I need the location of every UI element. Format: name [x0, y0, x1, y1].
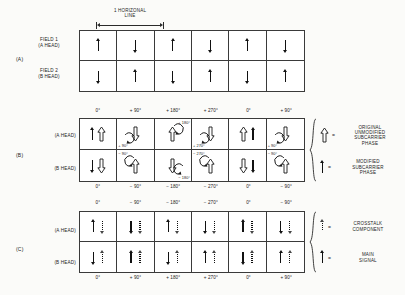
section-a-row-label-top: FIELD 1 (A HEAD): [26, 37, 72, 48]
section-c-cell-r2-c3: [155, 242, 192, 272]
measure-tick-right: [163, 22, 164, 29]
section-c-grid: [79, 211, 305, 273]
signal-symbol-group: [128, 219, 142, 234]
section-c-cell-r2-c5: [229, 242, 266, 272]
section-c-row-label-bottom: (B HEAD): [36, 260, 76, 266]
phase-symbol-group: [131, 126, 140, 142]
section-b-top-degree-6: + 90°: [267, 108, 305, 116]
section-b-cell-r1-c2: + 90°: [117, 119, 154, 150]
section-c-cell-r2-c6: [267, 242, 304, 272]
hollow-arrow-up-icon: [206, 158, 215, 174]
section-b-row-label-bottom: (B HEAD): [36, 166, 76, 172]
section-b-cell-r1-c5: [229, 119, 266, 150]
main-signal-arrow-down-icon: [203, 219, 208, 234]
crosstalk-arrow-up-icon: [137, 250, 142, 265]
phase-symbol-group: [168, 158, 177, 174]
section-a-cell-r2-c3: [155, 61, 192, 91]
phase-symbol-group: [168, 126, 177, 142]
section-c-cell-r1-c3: [155, 212, 192, 242]
subcarrier-arrow-up-icon: [208, 69, 213, 84]
subcarrier-arrow-up-icon: [283, 69, 288, 84]
hollow-arrow-down-icon: [97, 158, 106, 174]
section-b-top-degree-1: 0°: [79, 108, 117, 116]
measure-arrowhead-left: [97, 23, 100, 27]
section-c-brace: [309, 211, 317, 273]
subcarrier-arrow-up-icon: [96, 38, 101, 53]
section-c-bottom-degree-3: + 180°: [154, 275, 192, 283]
main-signal-arrow-up-icon: [128, 250, 133, 265]
section-b-top-degree-2: + 90°: [117, 108, 155, 116]
signal-symbol-group: [240, 219, 254, 234]
section-b-top-degree-5: 0°: [230, 108, 268, 116]
phase-symbol-group: [206, 126, 215, 142]
section-b-top-degree-4: + 270°: [192, 108, 230, 116]
main-signal-arrow-down-icon: [278, 219, 283, 234]
section-b-cell-r2-c6: − 90°: [267, 150, 304, 181]
main-signal-arrow-down-icon: [128, 219, 133, 234]
legend-text: MODIFIED SUBCARRIER PHASE: [334, 159, 402, 175]
signal-symbol-group: [203, 219, 217, 234]
subcarrier-arrow-up-icon: [245, 38, 250, 53]
rotation-label: − 270°: [193, 151, 205, 156]
legend-equals-sign: =: [332, 132, 335, 138]
crosstalk-arrow-down-icon: [137, 219, 142, 234]
section-a-cell-r2-c1: [80, 61, 117, 91]
section-b-bottom-degree-6: − 90°: [267, 184, 305, 192]
subcarrier-arrow-down-icon: [133, 38, 138, 53]
thin-arrow-down-icon: [90, 158, 95, 173]
crosstalk-arrow-up-icon: [175, 250, 180, 265]
section-b-legend-item-1: =ORIGINAL UNMODIFIED SUBCARRIER PHASE: [320, 125, 402, 146]
hollow-arrow-down-icon: [206, 126, 215, 142]
section-b-top-degrees: 0°+ 90°+ 180°+ 270°0°+ 90°: [79, 108, 305, 116]
signal-symbol-group: [240, 250, 254, 265]
main-signal-arrow-up-icon: [278, 250, 283, 265]
section-b-cell-r1-c3: + 180°: [155, 119, 192, 150]
hollow-arrow-up-icon: [281, 158, 290, 174]
crosstalk-arrow-down-icon: [212, 219, 217, 234]
section-a-cell-r1-c6: [267, 31, 304, 61]
main-signal-arrow-up-icon: [240, 219, 245, 234]
hollow-arrow-up-icon: [168, 126, 177, 142]
signal-symbol-group: [128, 250, 142, 265]
legend-text: ORIGINAL UNMODIFIED SUBCARRIER PHASE: [338, 125, 402, 146]
subcarrier-arrow-down-icon: [245, 69, 250, 84]
thin-arrow-up-icon: [320, 160, 325, 175]
section-c-bottom-degree-4: + 270°: [192, 275, 230, 283]
crosstalk-arrow-down-icon: [100, 219, 105, 234]
section-b-cell-r2-c5: [229, 150, 266, 181]
section-c-cell-r2-c4: [192, 242, 229, 272]
section-b-cell-r2-c1: [80, 150, 117, 181]
crosstalk-arrow-up-icon: [212, 250, 217, 265]
measure-arrowhead-right: [160, 23, 163, 27]
phase-symbol-group: [281, 126, 290, 142]
rotation-label: + 90°: [118, 143, 128, 148]
section-b-grid: + 90°+ 180°+ 270°+ 90°− 90°− 180°− 270°−…: [79, 118, 305, 182]
section-c-bottom-degrees: 0°+ 90°+ 180°+ 270°0°+ 90°: [79, 275, 305, 283]
rotation-label: − 90°: [268, 151, 278, 156]
section-c-top-degree-3: − 180°: [154, 200, 192, 208]
section-a-cell-r1-c2: [117, 31, 154, 61]
section-c-top-degree-4: − 270°: [192, 200, 230, 208]
section-b-bottom-degree-3: − 180°: [154, 184, 192, 192]
section-c-top-degree-6: − 90°: [267, 200, 305, 208]
main-signal-arrow-up-icon: [91, 219, 96, 234]
section-b-bottom-degree-2: − 90°: [117, 184, 155, 192]
section-b-cell-r1-c1: [80, 119, 117, 150]
phase-symbol-group: [239, 158, 255, 174]
phase-symbol-group: [131, 158, 140, 174]
hollow-arrow-down-icon: [168, 158, 177, 174]
main-signal-arrow-down-icon: [240, 250, 245, 265]
thin-arrow-up-icon: [320, 250, 325, 265]
section-a-cell-r1-c4: [192, 31, 229, 61]
crosstalk-arrow-down-icon: [287, 219, 292, 234]
phase-symbol-group: [281, 158, 290, 174]
signal-symbol-group: [166, 250, 180, 265]
phase-symbol-group: [239, 126, 255, 142]
measure-bar: [99, 25, 161, 26]
figure-canvas: 1 HORIZONAL LINE FIELD 1 (A HEAD) FIELD …: [0, 0, 405, 295]
horizontal-line-caption: 1 HORIZONAL LINE: [92, 8, 168, 19]
signal-symbol-group: [166, 219, 180, 234]
section-b-legend: =ORIGINAL UNMODIFIED SUBCARRIER PHASE=MO…: [320, 118, 402, 182]
thin-arrow-up-icon: [90, 127, 95, 142]
section-c-bottom-degree-2: + 90°: [117, 275, 155, 283]
